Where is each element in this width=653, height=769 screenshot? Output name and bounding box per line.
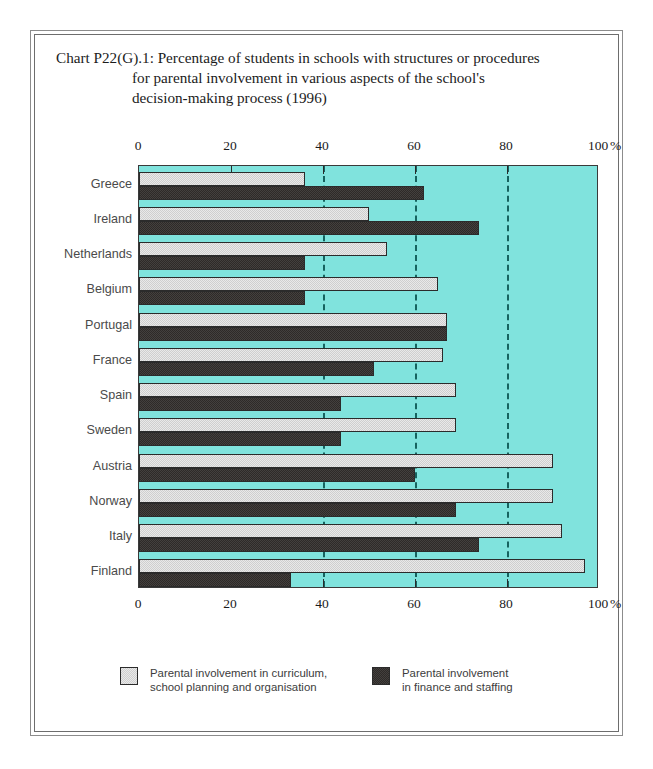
bar-groups [139, 166, 597, 587]
chart-legend: Parental involvement in curriculum, scho… [120, 666, 560, 710]
legend-label-curriculum: Parental involvement in curriculum, scho… [150, 666, 327, 694]
plot-wrapper [138, 165, 598, 588]
chart-title-line-1: Chart P22(G).1: Percentage of students i… [56, 48, 596, 68]
x-axis-unit-label: % [610, 138, 621, 154]
bar-group-belgium [139, 277, 597, 305]
y-label-austria: Austria [40, 459, 132, 473]
bar-group-greece [139, 172, 597, 200]
x-tick-label-60: 60 [407, 138, 421, 154]
bar-group-finland [139, 559, 597, 587]
plot-area [138, 165, 598, 588]
y-label-finland: Finland [40, 564, 132, 578]
bar-austria-series-0 [139, 454, 553, 468]
bar-group-portugal [139, 313, 597, 341]
y-label-belgium: Belgium [40, 282, 132, 296]
chart-title: Chart P22(G).1: Percentage of students i… [56, 48, 596, 108]
bar-italy-series-0 [139, 524, 562, 538]
legend-label-finance: Parental involvement in finance and staf… [402, 666, 513, 694]
x-tick-label-0: 0 [135, 138, 142, 154]
bar-finland-series-1 [139, 573, 291, 587]
bar-norway-series-0 [139, 489, 553, 503]
x-axis-top: 020406080100% [138, 138, 598, 156]
bar-group-italy [139, 524, 597, 552]
y-label-france: France [40, 353, 132, 367]
y-label-ireland: Ireland [40, 212, 132, 226]
bar-france-series-0 [139, 348, 443, 362]
y-label-norway: Norway [40, 494, 132, 508]
x-axis-bottom: 020406080100% [138, 596, 598, 614]
y-label-italy: Italy [40, 529, 132, 543]
x-tick-label-100: 100 [588, 596, 608, 612]
bar-austria-series-1 [139, 468, 415, 482]
x-tick-label-20: 20 [223, 138, 237, 154]
bar-sweden-series-1 [139, 432, 341, 446]
bar-spain-series-0 [139, 383, 456, 397]
x-tick-label-20: 20 [223, 596, 237, 612]
legend-item-finance: Parental involvement in finance and staf… [372, 666, 513, 694]
bar-finland-series-0 [139, 559, 585, 573]
y-label-spain: Spain [40, 388, 132, 402]
x-tick-label-40: 40 [315, 596, 329, 612]
bar-netherlands-series-0 [139, 242, 387, 256]
y-label-netherlands: Netherlands [40, 247, 132, 261]
bar-italy-series-1 [139, 538, 479, 552]
bar-france-series-1 [139, 362, 374, 376]
y-label-greece: Greece [40, 177, 132, 191]
bar-ireland-series-0 [139, 207, 369, 221]
x-axis-unit-label: % [610, 596, 621, 612]
bar-group-austria [139, 454, 597, 482]
x-tick-label-60: 60 [407, 596, 421, 612]
bar-group-ireland [139, 207, 597, 235]
legend-item-curriculum: Parental involvement in curriculum, scho… [120, 666, 327, 694]
x-tick-label-80: 80 [499, 138, 513, 154]
legend-swatch-light-icon [120, 667, 138, 685]
x-tick-label-100: 100 [588, 138, 608, 154]
bar-norway-series-1 [139, 503, 456, 517]
bar-belgium-series-0 [139, 277, 438, 291]
x-tick-label-0: 0 [135, 596, 142, 612]
bar-sweden-series-0 [139, 418, 456, 432]
y-label-sweden: Sweden [40, 423, 132, 437]
x-tick-label-80: 80 [499, 596, 513, 612]
chart-title-line-3: decision-making process (1996) [56, 88, 596, 108]
bar-group-france [139, 348, 597, 376]
bar-group-sweden [139, 418, 597, 446]
bar-group-netherlands [139, 242, 597, 270]
y-axis-category-labels: GreeceIrelandNetherlandsBelgiumPortugalF… [40, 165, 132, 588]
bar-belgium-series-1 [139, 291, 305, 305]
bar-portugal-series-1 [139, 327, 447, 341]
bar-greece-series-1 [139, 186, 424, 200]
bar-group-norway [139, 489, 597, 517]
chart-title-line-2: for parental involvement in various aspe… [56, 68, 596, 88]
y-label-portugal: Portugal [40, 318, 132, 332]
x-tick-label-40: 40 [315, 138, 329, 154]
chart-page: Chart P22(G).1: Percentage of students i… [0, 0, 653, 769]
bar-netherlands-series-1 [139, 256, 305, 270]
bar-ireland-series-1 [139, 221, 479, 235]
bar-portugal-series-0 [139, 313, 447, 327]
bar-group-spain [139, 383, 597, 411]
legend-swatch-dark-icon [372, 667, 390, 685]
bar-greece-series-0 [139, 172, 305, 186]
bar-spain-series-1 [139, 397, 341, 411]
